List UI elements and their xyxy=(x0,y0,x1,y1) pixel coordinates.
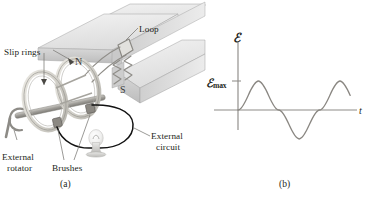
label-loop: Loop xyxy=(139,24,159,35)
emax-symbol: ℰ xyxy=(206,76,213,90)
caption-panel-a: (a) xyxy=(60,179,71,189)
caption-panel-b: (b) xyxy=(279,179,290,189)
label-pole-north: N xyxy=(75,56,82,67)
emax-subscript: max xyxy=(213,81,226,90)
emax-label: ℰmax xyxy=(206,73,226,91)
label-external-rotator-line2: rotator xyxy=(7,163,32,174)
label-external-circuit-line2: circuit xyxy=(156,142,180,153)
label-brushes: Brushes xyxy=(52,163,82,174)
panel-a-generator-diagram: Slip rings Loop External rotator Brushes… xyxy=(0,0,205,201)
label-external-circuit-line1: External xyxy=(151,131,183,142)
y-axis-label: ℰ xyxy=(233,30,241,45)
light-bulb xyxy=(86,130,106,157)
label-external-rotator-line1: External xyxy=(2,152,34,163)
emf-waveform-chart xyxy=(205,0,368,175)
x-axis-label: t xyxy=(359,105,362,116)
panel-b-emf-graph: ℰ ℰmax t (b) xyxy=(205,0,368,201)
label-pole-south: S xyxy=(120,84,126,95)
figure-container: Slip rings Loop External rotator Brushes… xyxy=(0,0,368,201)
label-slip-rings: Slip rings xyxy=(4,47,40,58)
